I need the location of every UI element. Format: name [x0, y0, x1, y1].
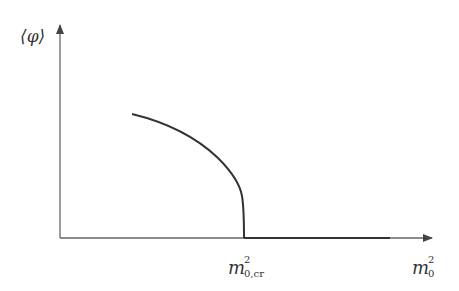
svg-text:0,cr: 0,cr [244, 268, 264, 279]
critical-tick-label: m 2 0,cr [228, 254, 264, 279]
svg-text:m: m [228, 257, 245, 278]
x-axis-label: m 2 0 [412, 254, 434, 279]
order-parameter-curve [132, 114, 244, 238]
y-axis-label: ⟨φ⟩ [20, 26, 45, 46]
svg-text:2: 2 [428, 254, 434, 265]
svg-text:m: m [412, 257, 429, 278]
svg-text:2: 2 [244, 254, 250, 265]
svg-text:0: 0 [428, 268, 434, 279]
order-parameter-chart: ⟨φ⟩ m 2 0,cr m 2 0 [0, 0, 459, 291]
